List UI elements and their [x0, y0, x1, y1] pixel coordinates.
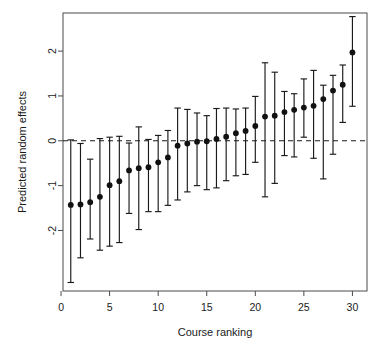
data-point-group [165, 130, 171, 205]
data-point-group [223, 108, 229, 181]
data-point-marker [116, 178, 122, 184]
data-point-group [340, 65, 346, 122]
x-axis-tick-label: 20 [249, 301, 261, 313]
data-point-marker [97, 194, 103, 200]
data-point-group [301, 79, 307, 137]
data-point-group [330, 75, 336, 154]
data-point-marker [252, 123, 258, 129]
data-point-group [145, 139, 151, 211]
data-point-group [116, 136, 122, 242]
data-point-marker [214, 136, 220, 142]
data-point-marker [165, 154, 171, 160]
data-point-marker [146, 164, 152, 170]
data-point-group [213, 109, 219, 188]
y-axis-tick-label: -2 [46, 226, 58, 235]
y-axis-tick-label: 2 [46, 48, 58, 54]
data-point-group [233, 109, 239, 176]
caterpillar-plot-figure: -2-1012051015202530Course rankingPredict… [0, 0, 382, 355]
data-point-marker [282, 109, 288, 115]
x-axis-tick-label: 0 [58, 301, 64, 313]
data-point-marker [311, 103, 317, 109]
data-point-group [272, 72, 278, 183]
data-point-marker [330, 88, 336, 94]
data-point-marker [87, 199, 93, 205]
x-axis-title: Course ranking [178, 326, 253, 338]
chart-canvas: -2-1012051015202530Course rankingPredict… [0, 0, 382, 355]
data-point-marker [155, 159, 161, 165]
data-point-group [155, 135, 161, 211]
data-point-group [252, 96, 258, 162]
data-point-group [106, 137, 112, 246]
data-point-marker [291, 107, 297, 113]
data-point-group [281, 91, 287, 155]
data-point-group [320, 85, 326, 179]
data-point-marker [223, 134, 229, 140]
data-point-marker [320, 96, 326, 102]
x-axis-tick-label: 15 [201, 301, 213, 313]
data-point-group [204, 116, 210, 190]
data-point-group [68, 140, 74, 283]
data-point-marker [301, 105, 307, 111]
data-point-marker [68, 202, 74, 208]
data-point-group [310, 70, 316, 158]
y-axis-tick-label: 0 [46, 138, 58, 144]
data-point-group [87, 159, 93, 239]
plot-border [63, 13, 367, 291]
data-point-marker [340, 82, 346, 88]
x-axis-tick-label: 10 [152, 301, 164, 313]
data-point-marker [262, 114, 268, 120]
data-point-group [194, 113, 200, 186]
data-point-marker [272, 113, 278, 119]
data-point-marker [194, 139, 200, 145]
data-point-marker [136, 165, 142, 171]
y-axis-tick-label: -1 [46, 181, 58, 190]
data-point-marker [233, 130, 239, 136]
data-point-group [126, 143, 132, 213]
x-axis-tick-label: 30 [347, 301, 359, 313]
data-point-group [136, 127, 142, 230]
data-point-group [262, 63, 268, 197]
data-point-marker [107, 182, 113, 188]
x-axis-tick-label: 5 [107, 301, 113, 313]
y-axis-tick-label: 1 [46, 93, 58, 99]
data-point-marker [175, 143, 181, 149]
data-point-marker [126, 167, 132, 173]
data-point-marker [184, 141, 190, 147]
data-point-marker [243, 128, 249, 134]
data-point-group [184, 109, 190, 192]
data-point-group [291, 94, 297, 157]
data-point-marker [350, 50, 356, 56]
data-point-group [97, 139, 103, 251]
data-point-marker [78, 202, 84, 208]
data-point-group [174, 108, 180, 200]
data-point-group [77, 143, 83, 257]
data-point-marker [204, 138, 210, 144]
y-axis-title: Predicted random effects [16, 90, 28, 213]
data-point-group [349, 17, 355, 107]
x-axis-tick-label: 25 [298, 301, 310, 313]
